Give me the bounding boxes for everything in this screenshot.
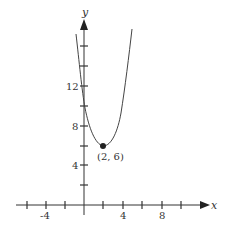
- y-tick-label: 8: [72, 121, 78, 132]
- x-tick-label: -4: [40, 210, 50, 221]
- x-axis-label: x: [211, 199, 218, 212]
- x-axis-arrow-icon: [200, 201, 210, 209]
- y-axis-arrow-icon: [80, 19, 88, 30]
- x-tick-label: 4: [120, 210, 126, 221]
- y-tick-label: 12: [66, 81, 79, 92]
- x-tick-label: 8: [159, 210, 165, 221]
- vertex-label: (2, 6): [97, 151, 124, 162]
- y-axis-label: y: [81, 6, 89, 19]
- vertex-point: [100, 143, 106, 149]
- chart-canvas: x y -4 4 8 4 8 12 (2, 6): [0, 0, 228, 237]
- parabola-chart: x y -4 4 8 4 8 12 (2, 6): [0, 0, 228, 237]
- y-tick-label: 4: [72, 160, 78, 171]
